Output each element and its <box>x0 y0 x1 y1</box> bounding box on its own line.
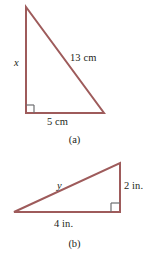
triangles-drawing <box>0 0 149 258</box>
label-b-hypotenuse: y <box>57 181 62 192</box>
label-a-hypotenuse: 13 cm <box>70 53 96 64</box>
geometry-figure-panel: 13 cm x 5 cm (a) y 2 in. 4 in. (b) <box>0 0 149 258</box>
label-a-horizontal-leg: 5 cm <box>47 117 68 128</box>
triangle-b-outline <box>14 163 120 212</box>
figure-caption-b: (b) <box>0 239 149 250</box>
figure-caption-a: (a) <box>0 135 149 146</box>
label-b-vertical-leg: 2 in. <box>124 181 143 192</box>
triangle-b <box>14 163 120 212</box>
label-a-vertical-leg: x <box>14 58 19 69</box>
label-b-horizontal-leg: 4 in. <box>54 219 73 230</box>
